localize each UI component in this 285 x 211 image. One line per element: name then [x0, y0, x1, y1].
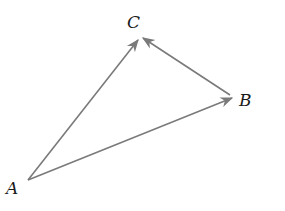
vector-b-to-c [143, 38, 230, 95]
vector-a-to-c [28, 40, 138, 180]
vector-a-to-b [28, 98, 232, 180]
vector-diagram: C B A [0, 0, 285, 211]
point-label-b: B [239, 92, 252, 109]
point-label-a: A [6, 180, 18, 197]
point-label-c: C [127, 14, 140, 31]
